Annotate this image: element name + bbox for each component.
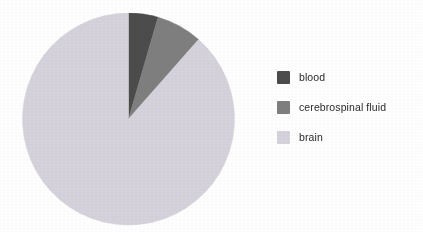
legend-swatch-brain [277,131,290,144]
legend-item-cerebrospinal-fluid[interactable]: cerebrospinal fluid [277,101,417,114]
pie-slice-group [22,13,234,225]
pie-chart-svg [22,13,235,226]
pie-chart-plot-area [22,13,235,226]
legend-label-brain: brain [299,131,323,144]
legend-swatch-blood [277,71,290,84]
legend-item-brain[interactable]: brain [277,131,417,144]
chart-legend: blood cerebrospinal fluid brain [277,71,417,144]
pie-slice-brain[interactable] [22,13,234,225]
legend-label-blood: blood [299,71,325,84]
legend-label-cerebrospinal-fluid: cerebrospinal fluid [299,101,386,114]
pie-chart-figure: blood cerebrospinal fluid brain [0,0,423,232]
legend-swatch-cerebrospinal-fluid [277,101,290,114]
legend-item-blood[interactable]: blood [277,71,417,84]
